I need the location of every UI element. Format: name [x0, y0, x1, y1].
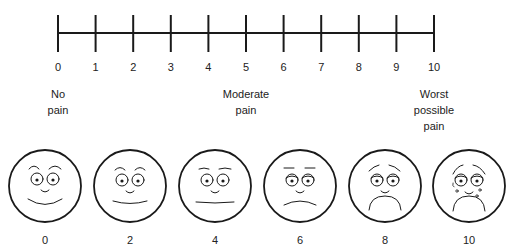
numeric-scale — [58, 15, 434, 52]
anchor-worst-pain-line2: possible — [394, 102, 474, 118]
tick-label-6: 6 — [274, 61, 294, 73]
face-label-6: 6 — [288, 234, 312, 246]
tick-label-3: 3 — [161, 61, 181, 73]
face-10-crying-icon — [433, 150, 505, 222]
face-label-10: 10 — [457, 234, 481, 246]
anchor-moderate-pain-line1: Moderate — [206, 86, 286, 102]
anchor-moderate-pain: Moderate pain — [206, 86, 286, 118]
tick-label-5: 5 — [236, 61, 256, 73]
anchor-worst-pain: Worst possible pain — [394, 86, 474, 134]
tick-label-4: 4 — [198, 61, 218, 73]
face-label-2: 2 — [118, 234, 142, 246]
face-label-0: 0 — [33, 234, 57, 246]
tick-label-0: 0 — [48, 61, 68, 73]
anchor-no-pain: No pain — [18, 86, 98, 118]
face-4-neutral-icon — [179, 150, 251, 222]
tick-label-7: 7 — [311, 61, 331, 73]
face-label-4: 4 — [203, 234, 227, 246]
tick-label-10: 10 — [424, 61, 444, 73]
face-6-slight-frown-icon — [264, 150, 336, 222]
face-8-frown-icon — [349, 150, 421, 222]
face-2-smile-icon — [94, 150, 166, 222]
anchor-worst-pain-line1: Worst — [394, 86, 474, 102]
face-0-big-smile-icon — [9, 150, 81, 222]
tick-label-9: 9 — [386, 61, 406, 73]
anchor-no-pain-line2: pain — [18, 102, 98, 118]
anchor-worst-pain-line3: pain — [394, 118, 474, 134]
tick-label-1: 1 — [86, 61, 106, 73]
face-label-8: 8 — [373, 234, 397, 246]
tick-label-8: 8 — [349, 61, 369, 73]
anchor-no-pain-line1: No — [18, 86, 98, 102]
anchor-moderate-pain-line2: pain — [206, 102, 286, 118]
tick-label-2: 2 — [123, 61, 143, 73]
